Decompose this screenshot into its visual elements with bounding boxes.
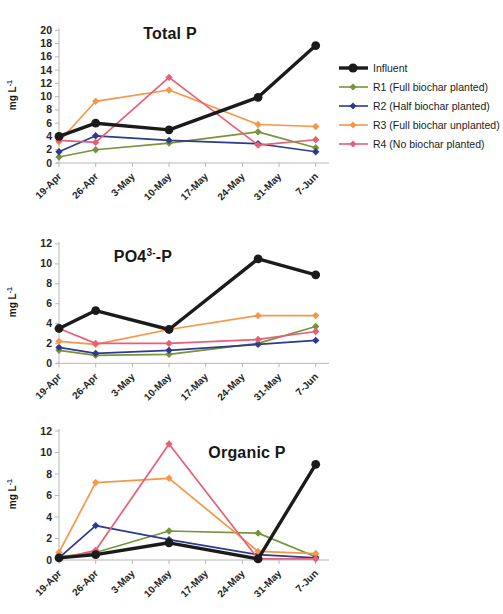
x-tick-label: 26-Apr bbox=[70, 568, 100, 598]
legend-marker-influent bbox=[338, 62, 369, 74]
chart-0-series-influent-marker bbox=[91, 119, 100, 128]
x-tick-label: 7-Jun bbox=[293, 371, 320, 398]
chart-1-series-r3-line bbox=[59, 316, 316, 345]
legend-label-r1: R1 (Full biochar planted) bbox=[373, 81, 488, 93]
legend-marker-r1 bbox=[338, 81, 369, 93]
chart-1-series-r2-marker bbox=[312, 337, 319, 344]
y-tick-label: 6 bbox=[46, 489, 52, 501]
y-axis-label-sup: -1 bbox=[6, 479, 13, 485]
y-tick-label: 8 bbox=[46, 468, 52, 480]
chart-0-series-influent-marker bbox=[311, 41, 320, 50]
y-tick-label: 8 bbox=[46, 103, 52, 115]
y-axis-label-sup: -1 bbox=[6, 287, 13, 293]
y-axis-label-text: mg L bbox=[7, 485, 18, 509]
x-tick-label: 7-Jun bbox=[293, 568, 320, 595]
chart-2-series-influent-marker bbox=[55, 553, 64, 562]
chart-1-series-r4-line bbox=[59, 328, 316, 343]
x-tick-label: 24-May bbox=[215, 567, 247, 599]
chart-0-series-influent-marker bbox=[55, 132, 64, 141]
x-tick-label: 3-May bbox=[109, 371, 137, 399]
legend-item-r3: R3 (Full biochar unplanted) bbox=[338, 118, 500, 131]
legend-item-r1: R1 (Full biochar planted) bbox=[338, 80, 500, 93]
y-tick-label: 2 bbox=[46, 532, 52, 544]
y-tick-label: 12 bbox=[40, 425, 52, 437]
y-tick-label: 2 bbox=[46, 337, 52, 349]
x-tick-label: 3-May bbox=[109, 567, 137, 595]
y-tick-label: 20 bbox=[40, 24, 52, 36]
x-tick-label: 24-May bbox=[215, 170, 247, 202]
y-tick-label: 0 bbox=[46, 554, 52, 566]
legend-label-r2: R2 (Half biochar planted) bbox=[373, 100, 490, 112]
y-tick-label: 4 bbox=[46, 317, 52, 329]
y-tick-label: 4 bbox=[46, 130, 52, 142]
chart-2-series-influent-marker bbox=[254, 555, 263, 564]
chart-title-po4-post: -P bbox=[156, 248, 172, 265]
legend-item-r2: R2 (Half biochar planted) bbox=[338, 99, 500, 112]
chart-2-series-r3-marker bbox=[92, 479, 99, 486]
x-tick-label: 24-May bbox=[215, 371, 247, 403]
chart-title-total-p-text: Total P bbox=[143, 25, 197, 42]
y-axis-label-text: mg L bbox=[7, 293, 18, 317]
x-tick-label: 26-Apr bbox=[70, 371, 100, 401]
y-tick-label: 6 bbox=[46, 297, 52, 309]
x-tick-label: 10-May bbox=[142, 170, 174, 202]
chart-0-series-r2-marker bbox=[92, 132, 99, 139]
chart-0-series-r2-marker bbox=[55, 148, 62, 155]
chart-0-series-r1-marker bbox=[92, 146, 99, 153]
x-tick-label: 3-May bbox=[109, 170, 137, 198]
chart-1-series-r3-marker bbox=[55, 338, 62, 345]
y-axis-label-chart3: mg L-1 bbox=[6, 464, 18, 524]
chart-0: 0246810121416182019-Apr26-Apr3-May10-May… bbox=[33, 24, 329, 203]
chart-1-series-influent-marker bbox=[254, 254, 263, 263]
chart-0-series-influent-marker bbox=[254, 93, 263, 102]
chart-1-series-r3-marker bbox=[312, 312, 319, 319]
x-tick-label: 10-May bbox=[142, 371, 174, 403]
chart-title-po4-pre: PO4 bbox=[114, 248, 147, 265]
chart-0-series-influent-marker bbox=[165, 125, 174, 134]
chart-1-series-r4-marker bbox=[165, 340, 172, 347]
chart-1-series-r3-marker bbox=[254, 312, 261, 319]
chart-2-series-influent-line bbox=[59, 464, 316, 559]
chart-title-organic-p: Organic P bbox=[208, 444, 285, 462]
y-tick-label: 10 bbox=[40, 90, 52, 102]
chart-1-series-r2-marker bbox=[165, 347, 172, 354]
chart-0-series-r1-marker bbox=[254, 128, 261, 135]
chart-1-series-influent-marker bbox=[165, 325, 174, 334]
x-tick-label: 19-Apr bbox=[33, 371, 63, 401]
y-tick-label: 8 bbox=[46, 277, 52, 289]
chart-title-po4-sup: 3- bbox=[146, 247, 155, 258]
legend-marker-r4 bbox=[338, 138, 369, 150]
x-tick-label: 17-May bbox=[178, 170, 210, 202]
legend-item-r4: R4 (No biochar planted) bbox=[338, 137, 500, 150]
chart-1-series-influent-marker bbox=[55, 324, 64, 333]
y-tick-label: 12 bbox=[40, 77, 52, 89]
chart-0-series-r4-marker bbox=[312, 136, 319, 143]
y-tick-label: 10 bbox=[40, 257, 52, 269]
chart-0-series-r3-marker bbox=[254, 121, 261, 128]
y-tick-label: 0 bbox=[46, 157, 52, 169]
chart-1-series-r4-marker bbox=[92, 340, 99, 347]
y-tick-label: 2 bbox=[46, 143, 52, 155]
y-tick-label: 16 bbox=[40, 50, 52, 62]
chart-2-series-influent-marker bbox=[91, 550, 100, 559]
x-tick-label: 19-Apr bbox=[33, 568, 63, 598]
chart-1-series-r1-line bbox=[59, 327, 316, 356]
y-tick-label: 14 bbox=[40, 64, 52, 76]
legend-marker-r3 bbox=[338, 119, 369, 131]
legend-item-influent: Influent bbox=[338, 61, 500, 74]
chart-2-series-influent-marker bbox=[311, 460, 320, 469]
x-tick-label: 31-May bbox=[252, 567, 284, 599]
chart-2-series-r1-marker bbox=[254, 529, 261, 536]
chart-1-series-r4-marker bbox=[312, 328, 319, 335]
y-axis-label-chart2: mg L-1 bbox=[6, 272, 18, 332]
x-tick-label: 7-Jun bbox=[293, 171, 320, 198]
chart-0-series-r3-marker bbox=[312, 123, 319, 130]
x-tick-label: 19-Apr bbox=[33, 171, 63, 201]
figure-canvas: 0246810121416182019-Apr26-Apr3-May10-May… bbox=[0, 0, 503, 614]
chart-title-organic-p-text: Organic P bbox=[208, 444, 285, 461]
chart-title-po4-p: PO43--P bbox=[114, 247, 172, 266]
chart-1-series-influent-line bbox=[59, 259, 316, 330]
x-tick-label: 31-May bbox=[252, 371, 284, 403]
x-tick-label: 17-May bbox=[178, 371, 210, 403]
legend-marker-r2 bbox=[338, 100, 369, 112]
